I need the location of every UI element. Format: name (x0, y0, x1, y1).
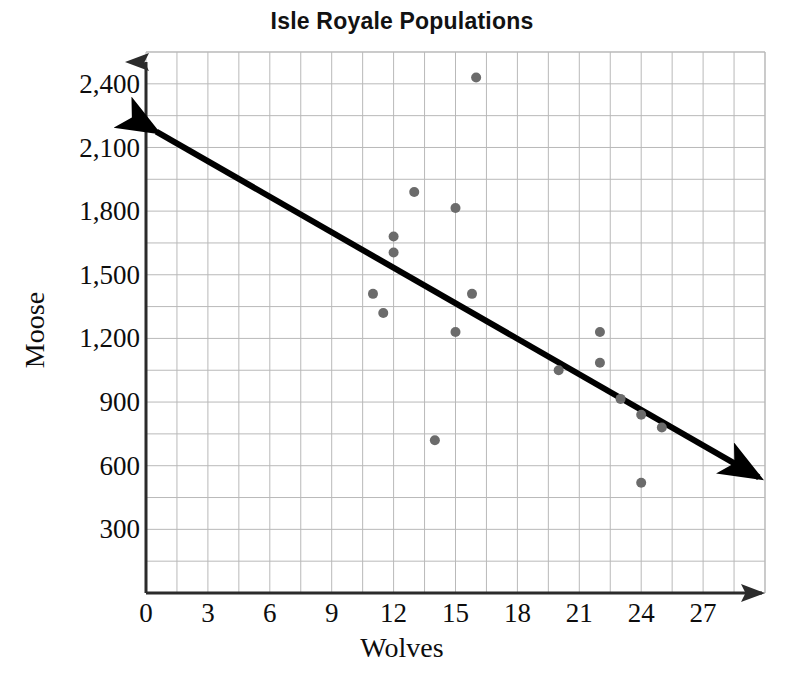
plot-canvas (0, 0, 804, 695)
data-point (451, 203, 461, 213)
data-point (430, 435, 440, 445)
data-point (616, 394, 626, 404)
data-point (389, 232, 399, 242)
gridlines (146, 52, 765, 593)
data-point (595, 327, 605, 337)
data-point (636, 478, 646, 488)
data-point (378, 308, 388, 318)
data-point (467, 289, 477, 299)
data-point (471, 72, 481, 82)
data-point (368, 289, 378, 299)
trendline (156, 132, 758, 478)
data-point (636, 410, 646, 420)
chart-figure: Isle Royale Populations 2,400 2,100 1,80… (0, 0, 804, 695)
data-point (595, 358, 605, 368)
data-point (409, 187, 419, 197)
data-point (451, 327, 461, 337)
data-point (389, 247, 399, 257)
data-point (657, 423, 667, 433)
data-point (554, 365, 564, 375)
